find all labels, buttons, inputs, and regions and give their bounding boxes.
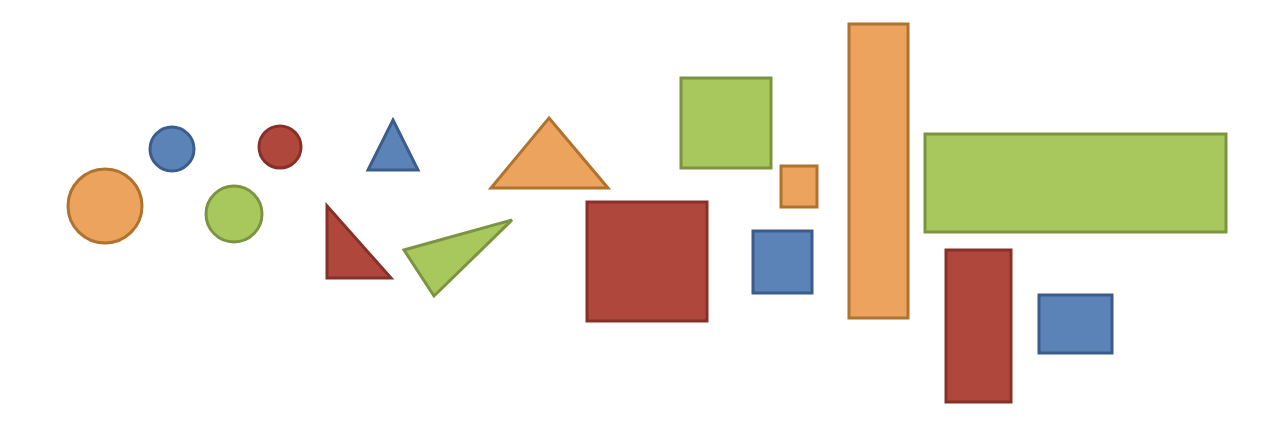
blue-circle-small [150, 127, 194, 171]
blue-rectangle-lower [1039, 295, 1112, 353]
blue-square-medium [753, 231, 812, 293]
orange-square-tiny [781, 166, 817, 207]
shape-layer: Geometric shape scatter canvas A plain w… [0, 0, 1279, 424]
green-square-upper [681, 78, 771, 168]
orange-circle-large [68, 169, 142, 243]
red-square-large [587, 202, 707, 321]
green-circle-medium [206, 186, 262, 242]
orange-vertical-bar [849, 24, 908, 318]
green-horizontal-bar [925, 134, 1226, 232]
red-circle-small [259, 126, 301, 168]
red-vertical-bar [946, 250, 1011, 402]
shape-canvas: Geometric shape scatter canvas A plain w… [0, 0, 1279, 424]
